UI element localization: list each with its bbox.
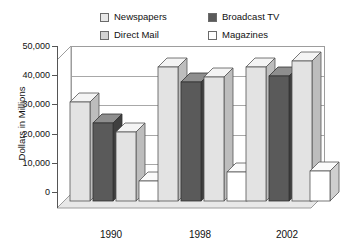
bar-chart: Newspapers Broadcast TV Direct Mail Maga… — [0, 0, 340, 251]
x-label-2002: 2002 — [257, 229, 317, 240]
bar-2002-magazines — [310, 162, 339, 201]
x-label-1990: 1990 — [81, 229, 141, 240]
bars-layer — [0, 0, 340, 251]
x-label-1998: 1998 — [170, 229, 230, 240]
